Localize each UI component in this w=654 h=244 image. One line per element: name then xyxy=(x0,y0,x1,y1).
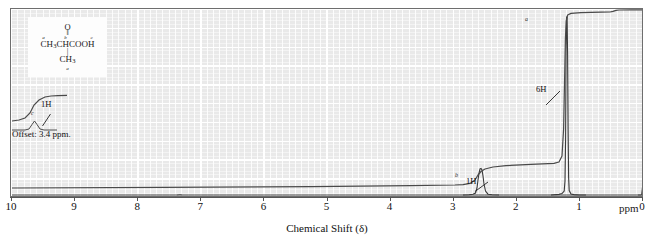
chemical-structure-inset: O ‖ a b c CH3CHCOOH | CH3 a xyxy=(28,17,107,77)
nmr-figure: a O ‖ a b c CH3CHCOOH | CH3 a Offset: 3.… xyxy=(0,0,654,244)
x-axis-tick-labels: 109876543210 xyxy=(0,200,654,216)
structure-methyl-ch: CH xyxy=(60,54,73,64)
integral-label-methine-1h: 1H xyxy=(466,176,476,186)
integral-label-offset-1h: 1H xyxy=(41,99,51,109)
x-axis-tick-label: 2 xyxy=(506,200,526,212)
offset-note: Offset: 3.4 ppm. xyxy=(12,129,71,139)
structure-methyl: CH3 xyxy=(60,55,76,65)
x-axis-tick-label: 4 xyxy=(380,200,400,212)
structure-ch: CH xyxy=(41,39,54,49)
integral-label-6h: 6H xyxy=(536,84,546,94)
peak-label-b: b xyxy=(455,172,458,178)
x-axis-tick-label: 5 xyxy=(317,200,337,212)
ppm-unit-label: ppm xyxy=(619,202,639,214)
x-axis-tick-label: 3 xyxy=(443,200,463,212)
peak-label-a: a xyxy=(525,16,528,22)
x-axis-tick-label: 9 xyxy=(64,200,84,212)
peak-label-c: c xyxy=(31,110,34,116)
structure-bottom-label: a xyxy=(66,66,69,71)
x-axis-tick-label: 6 xyxy=(253,200,273,212)
x-axis-tick-label: 1 xyxy=(569,200,589,212)
x-axis-tick-label: 10 xyxy=(1,200,21,212)
x-axis-tick-label: 7 xyxy=(190,200,210,212)
x-axis-caption: Chemical Shift (δ) xyxy=(0,222,654,234)
structure-methyl-subscript: 3 xyxy=(72,57,75,64)
structure-chain-rest: CHCOOH xyxy=(56,39,94,49)
x-axis-tick-label: 8 xyxy=(127,200,147,212)
